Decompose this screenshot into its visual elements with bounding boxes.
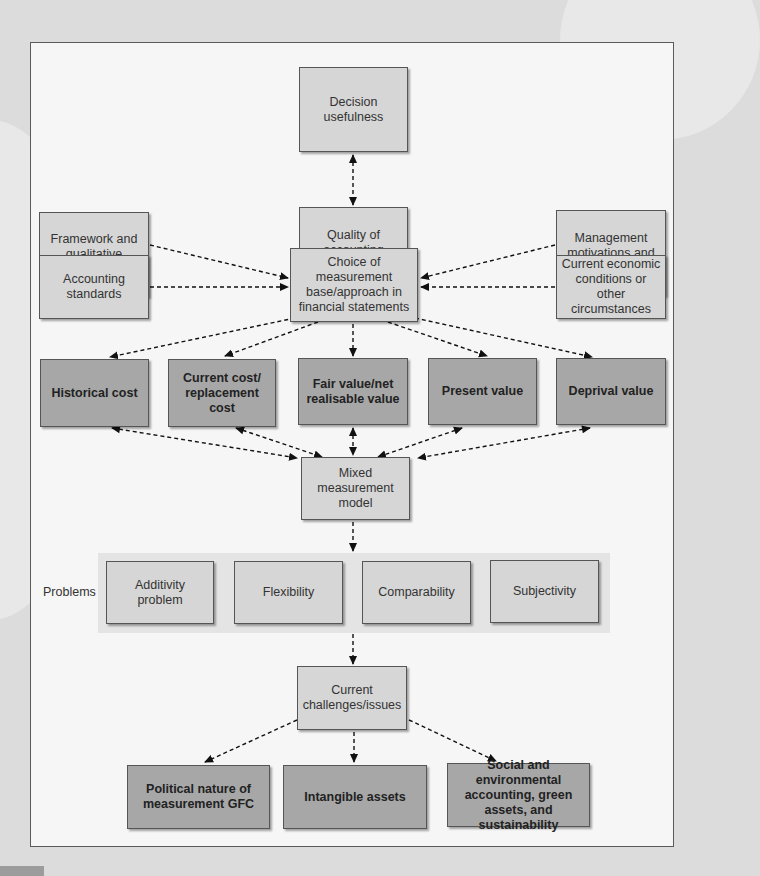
- current-cost-box: Current cost/ replacement cost: [168, 359, 276, 427]
- problems-label: Problems: [43, 585, 96, 599]
- problem-flexibility-box: Flexibility: [234, 561, 343, 624]
- fair-value-box: Fair value/net realisable value: [298, 358, 408, 425]
- intangible-assets-box: Intangible assets: [283, 765, 427, 829]
- problem-comparability-box: Comparability: [362, 561, 471, 624]
- political-nature-box: Political nature of measurement GFC: [127, 765, 270, 829]
- accounting-standards-box: Accounting standards: [39, 255, 149, 319]
- page-tab: [0, 866, 44, 876]
- current-challenges-box: Current challenges/issues: [297, 666, 407, 730]
- problem-subjectivity-box: Subjectivity: [490, 560, 599, 623]
- social-environmental-box: Social and environmental accounting, gre…: [447, 763, 590, 827]
- problem-additivity-box: Additivity problem: [106, 561, 214, 624]
- economic-conditions-box: Current economic conditions or other cir…: [556, 255, 666, 319]
- present-value-box: Present value: [428, 358, 537, 425]
- decision-usefulness-box: Decision usefulness: [299, 67, 408, 152]
- mixed-measurement-box: Mixed measurement model: [301, 457, 410, 520]
- choice-of-measurement-box: Choice of measurement base/approach in f…: [290, 248, 418, 322]
- historical-cost-box: Historical cost: [40, 359, 149, 427]
- deprival-value-box: Deprival value: [556, 358, 666, 425]
